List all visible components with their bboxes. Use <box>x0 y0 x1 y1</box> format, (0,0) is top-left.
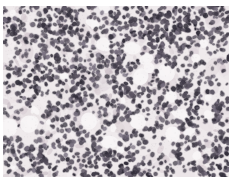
page <box>0 0 234 184</box>
histology-micrograph-image <box>0 0 234 184</box>
